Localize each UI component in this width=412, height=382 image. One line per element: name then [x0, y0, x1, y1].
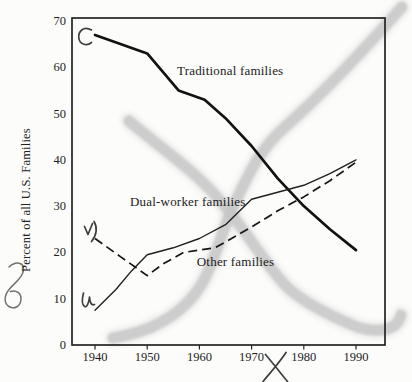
- handwritten-x-annotation: [263, 353, 288, 382]
- x-tick-label: 1970: [239, 350, 264, 365]
- y-tick-label: 70: [32, 13, 66, 28]
- x-tick-label: 1950: [135, 350, 160, 365]
- handwritten-c-annotation: [79, 28, 92, 44]
- y-tick-label: 60: [32, 60, 66, 75]
- x-tick-label: 1990: [344, 350, 369, 365]
- y-tick-label: 10: [32, 291, 66, 306]
- y-tick-label: 50: [32, 106, 66, 121]
- x-tick-label: 1980: [291, 350, 316, 365]
- y-tick-label: 30: [32, 199, 66, 214]
- handwritten-u-annotation: [82, 293, 94, 307]
- series-label-traditional-families: Traditional families: [177, 63, 283, 79]
- figure: Percent of all U.S. Families Traditional…: [0, 0, 412, 382]
- handwritten-check-paren-annotation: [85, 222, 97, 242]
- y-tick-label: 0: [32, 338, 66, 353]
- series-label-dual-worker-families: Dual-worker families: [130, 194, 246, 210]
- x-tick-label: 1940: [83, 350, 108, 365]
- series-label-other-families: Other families: [197, 254, 275, 270]
- highlighter-marks: [113, 7, 402, 338]
- chart-canvas: [0, 0, 412, 382]
- y-tick-label: 20: [32, 245, 66, 260]
- y-tick-label: 40: [32, 152, 66, 167]
- x-tick-label: 1960: [187, 350, 212, 365]
